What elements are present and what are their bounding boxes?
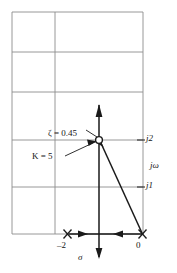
damping-ratio-label: ζ = 0.45 (48, 129, 77, 138)
constant-damping-line (95, 139, 142, 233)
design-point-marker (96, 137, 103, 144)
real-axis-locus (69, 230, 143, 237)
gain-label: K = 5 (32, 152, 53, 161)
grid (12, 12, 143, 234)
zeta-leader-line (86, 130, 97, 137)
vertical-branch-arrow-down (96, 248, 103, 259)
vertical-locus-branch (96, 104, 103, 259)
axis-label-j2: j2 (146, 134, 153, 143)
axis-label-sigma: σ (78, 253, 82, 262)
axis-label-j1: j1 (146, 181, 153, 190)
gain-leader-line (65, 140, 97, 157)
axis-label-jomega: jω (150, 161, 159, 170)
real-axis-arrow-right (78, 230, 88, 237)
pole-label-minus-two: –2 (57, 241, 66, 250)
pole-label-origin: 0 (136, 241, 141, 250)
vertical-branch-arrow-up (96, 104, 103, 117)
real-axis-arrow-left (113, 230, 123, 237)
